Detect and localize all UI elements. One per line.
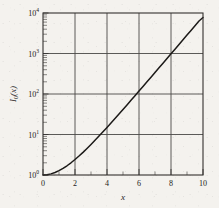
chart-figure: 100 101 102 103 104 0 2 4 6 8 10 x I0(x) (0, 0, 219, 208)
y-tick-base-4: 10 (28, 9, 36, 18)
y-tick-base-1: 10 (28, 131, 36, 140)
x-tick-label-3: 6 (137, 179, 141, 188)
y-tick-base-0: 10 (28, 171, 36, 180)
svg-text:103: 103 (28, 48, 39, 59)
y-tick-exp-3: 3 (36, 48, 39, 54)
x-tick-label-2: 4 (105, 179, 109, 188)
x-tick-label-0: 0 (41, 179, 45, 188)
y-tick-exp-1: 1 (36, 129, 39, 135)
y-tick-exp-0: 0 (36, 169, 39, 175)
x-axis-tick-labels: 0 2 4 6 8 10 (41, 179, 207, 188)
x-tick-label-1: 2 (73, 179, 77, 188)
y-axis-tick-labels: 100 101 102 103 104 (28, 7, 39, 180)
y-tick-base-2: 10 (28, 90, 36, 99)
y-axis-label: I0(x) (8, 86, 19, 103)
x-tick-label-4: 8 (169, 179, 173, 188)
svg-text:I0(x): I0(x) (8, 86, 19, 103)
svg-text:104: 104 (28, 7, 39, 18)
svg-text:102: 102 (28, 88, 39, 99)
y-tick-base-3: 10 (28, 50, 36, 59)
y-tick-exp-4: 4 (36, 7, 39, 13)
x-axis-label: x (120, 192, 125, 202)
y-tick-exp-2: 2 (36, 88, 39, 94)
x-tick-label-5: 10 (199, 179, 207, 188)
svg-text:100: 100 (28, 169, 39, 180)
y-axis-label-arg: (x) (8, 86, 18, 96)
svg-text:101: 101 (28, 129, 39, 140)
chart-svg: 100 101 102 103 104 0 2 4 6 8 10 x I0(x) (0, 0, 219, 208)
